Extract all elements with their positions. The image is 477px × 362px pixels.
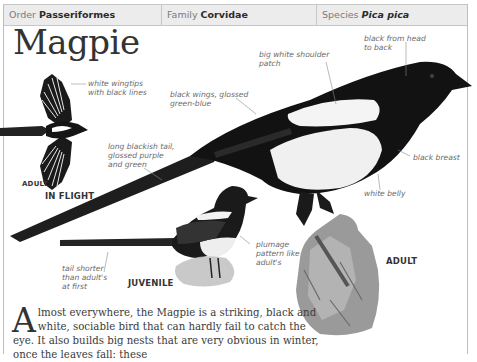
annotation-line: glossed purple	[108, 151, 175, 160]
annotation-line: adult's	[256, 258, 300, 267]
annotation-line: plumage	[256, 240, 300, 249]
annotation-tail: long blackish tail, glossed purple and g…	[108, 142, 175, 169]
annotation-line: white belly	[364, 189, 405, 198]
caption-juvenile: JUVENILE	[128, 278, 174, 288]
annotation-line: at first	[62, 282, 107, 291]
caption-flight-adult: ADULT	[22, 180, 48, 188]
body-paragraph: A lmost everywhere, the Magpie is a stri…	[13, 306, 323, 362]
annotation-line: white wingtips	[88, 79, 147, 88]
annotation-line: patch	[259, 59, 329, 68]
annotation-wings: black wings, glossed green-blue	[170, 90, 248, 108]
annotation-line: tail shorter	[62, 264, 107, 273]
caption-in-flight: IN FLIGHT	[45, 191, 94, 201]
annotation-line: big white shoulder	[259, 50, 329, 59]
drop-cap: A	[12, 308, 36, 334]
annotation-tail-shorter: tail shorter than adult's at first	[62, 264, 107, 291]
annotation-breast: black breast	[413, 153, 460, 162]
annotation-wingtips: white wingtips with black lines	[88, 79, 147, 97]
annotation-line: long blackish tail,	[108, 142, 175, 151]
annotation-line: black breast	[413, 153, 460, 162]
annotation-line: than adult's	[62, 273, 107, 282]
annotation-line: green-blue	[170, 99, 248, 108]
caption-adult: ADULT	[386, 256, 417, 266]
annotation-shoulder: big white shoulder patch	[259, 50, 329, 68]
annotation-head: black from head to back	[364, 34, 426, 52]
annotation-line: black wings, glossed	[170, 90, 248, 99]
magpie-in-flight-illustration	[0, 74, 88, 190]
annotation-line: and green	[108, 160, 175, 169]
annotation-line: with black lines	[88, 88, 147, 97]
annotation-line: pattern like	[256, 249, 300, 258]
page-title: Magpie	[13, 22, 140, 62]
annotation-line: to back	[364, 43, 426, 52]
annotation-belly: white belly	[364, 189, 405, 198]
body-text: lmost everywhere, the Magpie is a striki…	[13, 307, 319, 360]
annotation-plumage: plumage pattern like adult's	[256, 240, 300, 267]
annotation-line: black from head	[364, 34, 426, 43]
